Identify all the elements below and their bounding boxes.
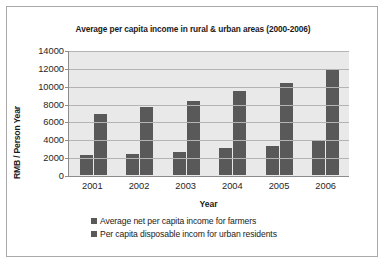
bar xyxy=(187,101,200,175)
x-axis-tick-label: 2003 xyxy=(162,181,209,191)
bar xyxy=(266,146,279,175)
y-axis-tick-label: 6000 xyxy=(43,117,64,127)
x-axis-title: Year xyxy=(68,199,349,209)
x-axis-tick-label: 2004 xyxy=(209,181,256,191)
y-axis-tickmark xyxy=(65,140,69,141)
gridline xyxy=(69,122,349,123)
y-axis-tick-label: 0 xyxy=(59,171,64,181)
y-axis-tick-label: 4000 xyxy=(43,135,64,145)
gridline xyxy=(69,51,349,52)
y-axis-tickmark xyxy=(65,105,69,106)
x-axis-tick-labels: 200120022003200420052006 xyxy=(69,181,349,191)
legend-swatch-icon xyxy=(91,218,97,224)
gridline xyxy=(69,87,349,88)
y-axis-tick-label: 12000 xyxy=(38,64,64,74)
legend-label: Per capita disposable incom for urban re… xyxy=(100,229,277,239)
plot-area xyxy=(68,51,349,177)
y-axis-tickmark xyxy=(65,87,69,88)
y-axis-tickmark xyxy=(65,158,69,159)
y-axis-tick-label: 10000 xyxy=(38,82,64,92)
y-axis-tickmark xyxy=(65,51,69,52)
legend-item[interactable]: Per capita disposable incom for urban re… xyxy=(91,227,361,240)
chart-title: Average per capita income in rural & urb… xyxy=(7,24,379,34)
gridline xyxy=(69,158,349,159)
chart-legend: Average net per capita income for farmer… xyxy=(91,214,361,240)
x-axis-tick-label: 2001 xyxy=(69,181,116,191)
y-axis-title: RMB / Person Year xyxy=(12,106,22,179)
gridline xyxy=(69,140,349,141)
legend-item[interactable]: Average net per capita income for farmer… xyxy=(91,214,361,227)
y-axis-tickmark xyxy=(65,122,69,123)
gridline xyxy=(69,105,349,106)
bar xyxy=(173,152,186,175)
y-axis-tick-label: 2000 xyxy=(43,153,64,163)
y-axis-tick-labels: 14000120001000080006000400020000 xyxy=(25,45,67,177)
bar xyxy=(280,83,293,175)
legend-label: Average net per capita income for farmer… xyxy=(100,216,256,226)
x-axis-tick-label: 2005 xyxy=(256,181,303,191)
x-axis-tick-label: 2006 xyxy=(302,181,349,191)
y-axis-tickmark xyxy=(65,69,69,70)
chart-frame: Average per capita income in rural & urb… xyxy=(6,6,378,257)
bar xyxy=(219,148,232,175)
y-axis-tickmark xyxy=(65,176,69,177)
x-axis-tick-label: 2002 xyxy=(116,181,163,191)
gridline xyxy=(69,69,349,70)
y-axis-tick-label: 14000 xyxy=(38,46,64,56)
y-axis-tick-label: 8000 xyxy=(43,100,64,110)
legend-swatch-icon xyxy=(91,231,97,237)
